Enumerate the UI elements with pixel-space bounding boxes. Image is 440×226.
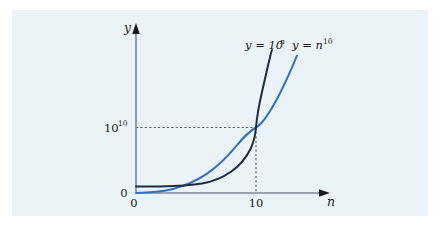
x-tick-label-10: 10 (249, 196, 264, 210)
y-axis-arrowhead (132, 23, 140, 34)
y-tick-mantissa: 10 (104, 121, 119, 135)
y-tick-label-10e10: 10 10 (104, 119, 128, 134)
y-origin-label: 0 (120, 186, 127, 200)
x-origin-label: 0 (130, 196, 137, 210)
y-tick-exponent: 10 (118, 119, 128, 128)
y-axis-label: y (123, 20, 132, 35)
curve-label-exponential-exponent: n (280, 37, 285, 46)
guide-lines (136, 128, 256, 194)
plot-canvas: y n 0 0 10 10 10 y = 10 n y = n 10 (0, 0, 440, 226)
curve-label-polynomial-base: y = n (291, 38, 323, 52)
curve-label-polynomial: y = n 10 (291, 37, 333, 52)
figure-root: y n 0 0 10 10 10 y = 10 n y = n 10 (0, 0, 440, 226)
curve-exponential (136, 50, 272, 187)
curve-label-exponential: y = 10 n (244, 37, 285, 52)
x-axis-label: n (327, 194, 335, 209)
curve-label-polynomial-exponent: 10 (323, 37, 333, 46)
curve-label-exponential-base: y = 10 (244, 38, 283, 52)
curve-polynomial (136, 56, 297, 193)
